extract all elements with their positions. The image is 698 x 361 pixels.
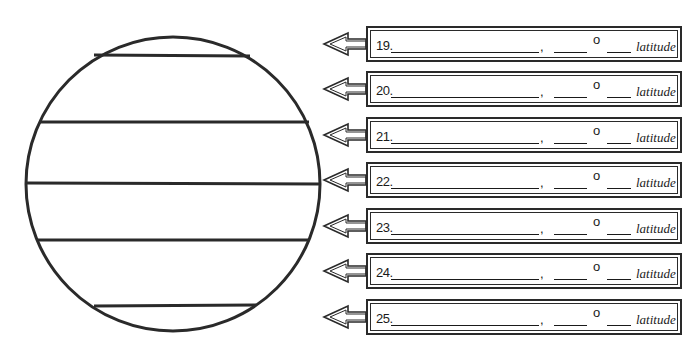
latitude-label: latitude <box>636 175 676 191</box>
degree-blank-field[interactable] <box>554 234 587 235</box>
question-number: 25. <box>376 311 393 326</box>
comma: , <box>540 130 544 145</box>
arrow-left-icon <box>322 162 368 198</box>
arrow-left-icon <box>322 117 368 153</box>
answer-box-inner: 23. , o latitude <box>370 212 678 240</box>
direction-blank-field[interactable] <box>607 325 631 326</box>
latitude-line-5 <box>94 305 256 306</box>
degree-symbol: o <box>593 214 600 229</box>
direction-blank-field[interactable] <box>607 143 631 144</box>
answer-box-inner: 20. , o latitude <box>370 75 678 103</box>
answer-box-inner: 19. , o latitude <box>370 30 678 58</box>
question-number: 23. <box>376 220 393 235</box>
name-blank-field[interactable] <box>391 279 539 280</box>
degree-blank-field[interactable] <box>554 143 587 144</box>
comma: , <box>540 312 544 327</box>
name-blank-field[interactable] <box>391 325 539 326</box>
answer-box: 22. , o latitude <box>366 162 682 198</box>
degree-symbol: o <box>593 32 600 47</box>
answer-box-inner: 24. , o latitude <box>370 257 678 285</box>
degree-blank-field[interactable] <box>554 52 587 53</box>
comma: , <box>540 39 544 54</box>
latitude-line-1 <box>94 55 250 56</box>
question-number: 19. <box>376 38 393 53</box>
degree-symbol: o <box>593 259 600 274</box>
answer-row-24: 24. , o latitude <box>322 253 682 289</box>
comma: , <box>540 221 544 236</box>
name-blank-field[interactable] <box>391 52 539 53</box>
answer-box: 24. , o latitude <box>366 253 682 289</box>
arrow-left-icon <box>322 208 368 244</box>
answer-box: 20. , o latitude <box>366 71 682 107</box>
answer-row-21: 21. , o latitude <box>322 117 682 153</box>
degree-blank-field[interactable] <box>554 279 587 280</box>
direction-blank-field[interactable] <box>607 97 631 98</box>
comma: , <box>540 266 544 281</box>
degree-symbol: o <box>593 168 600 183</box>
answer-box-inner: 22. , o latitude <box>370 166 678 194</box>
answer-box-inner: 21. , o latitude <box>370 121 678 149</box>
arrow-left-icon <box>322 253 368 289</box>
degree-symbol: o <box>593 123 600 138</box>
latitude-line-3-equator <box>27 183 320 184</box>
name-blank-field[interactable] <box>391 97 539 98</box>
direction-blank-field[interactable] <box>607 52 631 53</box>
degree-blank-field[interactable] <box>554 325 587 326</box>
question-number: 24. <box>376 265 393 280</box>
globe-diagram <box>0 0 330 361</box>
answer-box: 19. , o latitude <box>366 26 682 62</box>
answer-box: 23. , o latitude <box>366 208 682 244</box>
question-number: 20. <box>376 83 393 98</box>
latitude-label: latitude <box>636 312 676 328</box>
comma: , <box>540 84 544 99</box>
name-blank-field[interactable] <box>391 188 539 189</box>
degree-symbol: o <box>593 77 600 92</box>
answer-box-inner: 25. , o latitude <box>370 303 678 331</box>
answer-row-25: 25. , o latitude <box>322 299 682 335</box>
latitude-label: latitude <box>636 130 676 146</box>
answer-row-22: 22. , o latitude <box>322 162 682 198</box>
degree-symbol: o <box>593 305 600 320</box>
latitude-label: latitude <box>636 39 676 55</box>
question-number: 21. <box>376 129 393 144</box>
answer-row-20: 20. , o latitude <box>322 71 682 107</box>
answer-row-19: 19. , o latitude <box>322 26 682 62</box>
latitude-label: latitude <box>636 84 676 100</box>
direction-blank-field[interactable] <box>607 234 631 235</box>
latitude-label: latitude <box>636 266 676 282</box>
direction-blank-field[interactable] <box>607 188 631 189</box>
comma: , <box>540 175 544 190</box>
direction-blank-field[interactable] <box>607 279 631 280</box>
degree-blank-field[interactable] <box>554 188 587 189</box>
arrow-left-icon <box>322 299 368 335</box>
degree-blank-field[interactable] <box>554 97 587 98</box>
arrow-left-icon <box>322 26 368 62</box>
answer-box: 25. , o latitude <box>366 299 682 335</box>
name-blank-field[interactable] <box>391 234 539 235</box>
latitude-label: latitude <box>636 221 676 237</box>
name-blank-field[interactable] <box>391 143 539 144</box>
arrow-left-icon <box>322 71 368 107</box>
question-number: 22. <box>376 174 393 189</box>
answer-row-23: 23. , o latitude <box>322 208 682 244</box>
answer-box: 21. , o latitude <box>366 117 682 153</box>
